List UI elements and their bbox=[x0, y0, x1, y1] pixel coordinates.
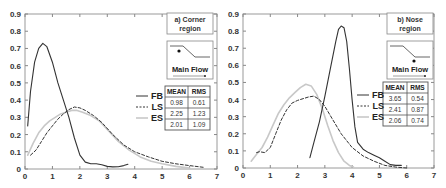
table-cell: 0.74 bbox=[411, 117, 424, 124]
table-cell: 0.98 bbox=[170, 99, 183, 106]
legend-label-fb: FB bbox=[372, 90, 384, 100]
table-cell: 2.06 bbox=[389, 117, 402, 124]
y-tick-label: 0.9 bbox=[10, 10, 22, 19]
table-cell: 3.65 bbox=[389, 95, 402, 102]
y-tick-label: 0.1 bbox=[228, 147, 240, 156]
x-tick-label: 7 bbox=[215, 172, 220, 181]
y-tick-label: 0.7 bbox=[10, 44, 22, 53]
table-cell: 2.41 bbox=[389, 106, 402, 113]
x-tick-label: 5 bbox=[160, 172, 165, 181]
x-tick-label: 4 bbox=[350, 171, 355, 180]
x-tick-label: 6 bbox=[404, 171, 409, 180]
table-cell: 0.61 bbox=[193, 99, 206, 106]
table-header-cell: RMS bbox=[192, 88, 207, 95]
x-tick-label: 3 bbox=[323, 171, 328, 180]
legend-label-es: ES bbox=[151, 113, 163, 123]
table-header-cell: RMS bbox=[410, 84, 425, 91]
y-tick-label: 0.8 bbox=[228, 27, 240, 36]
y-tick-label: 0 bbox=[17, 165, 22, 174]
y-tick-label: 0.5 bbox=[10, 79, 22, 88]
figure: 0123456700.10.20.30.40.50.60.70.80.9a) C… bbox=[0, 0, 446, 188]
arrow-head-icon bbox=[204, 75, 206, 77]
legend-label-es: ES bbox=[372, 112, 384, 122]
region-label-line2: region bbox=[179, 25, 200, 33]
y-tick-label: 0.2 bbox=[228, 130, 240, 139]
y-tick-label: 0.3 bbox=[228, 113, 240, 122]
chart-panel-corner-region: 0123456700.10.20.30.40.50.60.70.80.9a) C… bbox=[10, 10, 220, 181]
x-tick-label: 5 bbox=[377, 171, 382, 180]
x-tick-label: 7 bbox=[432, 171, 437, 180]
y-tick-label: 0.8 bbox=[10, 27, 22, 36]
x-tick-label: 2 bbox=[78, 172, 83, 181]
table-header-cell: MEAN bbox=[167, 88, 186, 95]
x-tick-label: 2 bbox=[295, 171, 300, 180]
arrow-head-icon bbox=[424, 75, 426, 77]
y-tick-label: 0.7 bbox=[228, 44, 240, 53]
y-tick-label: 0.2 bbox=[10, 131, 22, 140]
y-tick-label: 0.9 bbox=[228, 10, 240, 19]
y-tick-label: 0.1 bbox=[10, 148, 22, 157]
region-label-line2: region bbox=[399, 25, 420, 33]
y-tick-label: 0.4 bbox=[10, 96, 22, 105]
legend-label-fb: FB bbox=[151, 91, 163, 101]
table-cell: 0.54 bbox=[411, 95, 424, 102]
table-cell: 2.01 bbox=[170, 121, 183, 128]
probe-location-dot bbox=[412, 59, 415, 62]
x-tick-label: 3 bbox=[105, 172, 110, 181]
legend-label-ls: LS bbox=[151, 102, 163, 112]
chart-panel-nose-region: 0123456700.10.20.30.40.50.60.70.80.9b) N… bbox=[228, 10, 437, 180]
x-tick-label: 1 bbox=[50, 172, 55, 181]
series-line-es bbox=[251, 84, 353, 167]
region-label-line1: a) Corner bbox=[174, 16, 205, 24]
y-tick-label: 0.6 bbox=[228, 61, 240, 70]
main-flow-label: Main Flow bbox=[392, 65, 428, 74]
y-tick-label: 0.5 bbox=[228, 78, 240, 87]
y-tick-label: 0.3 bbox=[10, 113, 22, 122]
x-tick-label: 4 bbox=[132, 172, 137, 181]
y-tick-label: 0.6 bbox=[10, 62, 22, 71]
region-label-line1: b) Nose bbox=[397, 16, 423, 24]
table-cell: 0.87 bbox=[411, 106, 424, 113]
x-tick-label: 0 bbox=[241, 171, 246, 180]
table-header-cell: MEAN bbox=[385, 84, 404, 91]
probe-location-dot bbox=[177, 49, 180, 52]
x-tick-label: 1 bbox=[268, 171, 273, 180]
series-line-fb bbox=[28, 43, 128, 167]
y-tick-label: 0.4 bbox=[228, 96, 240, 105]
x-tick-label: 0 bbox=[23, 172, 28, 181]
main-flow-label: Main Flow bbox=[172, 65, 208, 74]
legend-label-ls: LS bbox=[372, 101, 384, 111]
y-tick-label: 0 bbox=[235, 164, 240, 173]
x-tick-label: 6 bbox=[187, 172, 192, 181]
table-cell: 1.23 bbox=[193, 110, 206, 117]
table-cell: 1.09 bbox=[193, 121, 206, 128]
table-cell: 2.25 bbox=[170, 110, 183, 117]
